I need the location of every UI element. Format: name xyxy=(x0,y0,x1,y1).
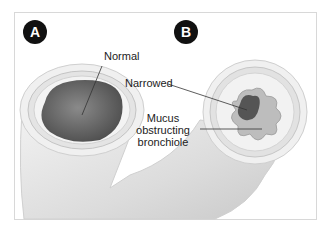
panel-b-badge: B xyxy=(174,20,198,44)
mucus-label-line-1: Mucus xyxy=(129,112,197,124)
panel-a-badge: A xyxy=(23,20,47,44)
mucus-label: Mucus obstructing bronchiole xyxy=(129,112,197,148)
normal-label: Normal xyxy=(104,50,139,62)
narrowed-bronchiole-cross-section xyxy=(203,60,307,164)
narrowed-label: Narrowed xyxy=(125,77,173,89)
mucus-label-line-2: obstructing xyxy=(129,124,197,136)
mucus-label-line-3: bronchiole xyxy=(129,136,197,148)
